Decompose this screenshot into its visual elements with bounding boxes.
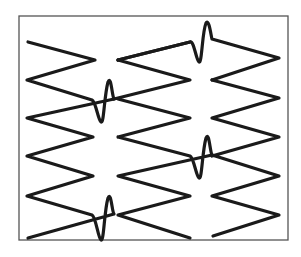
zigzag-right	[212, 80, 279, 236]
zigzag-center-left	[114, 60, 212, 238]
zigzag-diagram	[0, 0, 301, 257]
zigzag-left-outer	[27, 42, 114, 240]
zigzag-top-wiggle	[118, 22, 279, 80]
